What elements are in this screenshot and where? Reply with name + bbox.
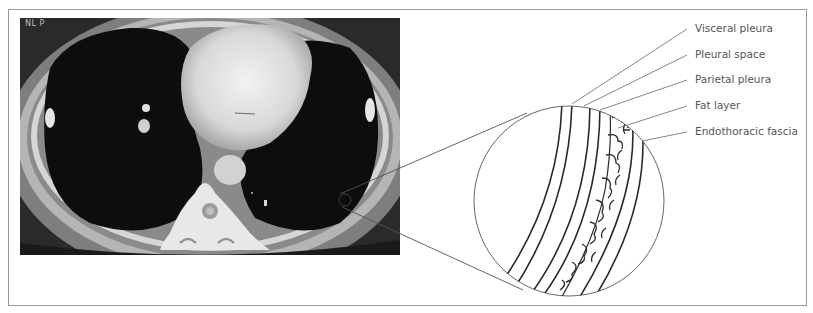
label-visceral-pleura: Visceral pleura <box>695 22 773 34</box>
label-fat-layer: Fat layer <box>695 99 740 111</box>
magnify-marker-icon <box>339 194 351 206</box>
annotation-overlay <box>0 0 813 313</box>
label-endothoracic-fascia: Endothoracic fascia <box>695 125 798 137</box>
label-pleural-space: Pleural space <box>695 48 765 60</box>
magnified-view <box>474 100 664 302</box>
label-parietal-pleura: Parietal pleura <box>695 73 771 85</box>
